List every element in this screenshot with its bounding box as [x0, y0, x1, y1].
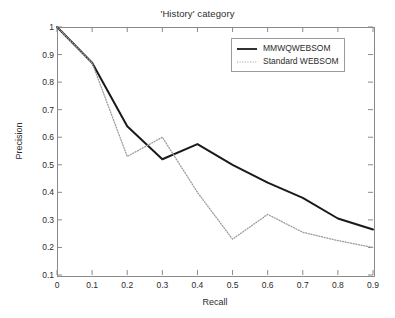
y-tick-label-6: 0.7	[20, 105, 54, 115]
x-tick-label-8: 0.8	[318, 280, 358, 290]
y-tick-label-7: 0.8	[20, 77, 54, 87]
y-tick-label-2: 0.3	[20, 215, 54, 225]
figure-canvas: 'History' category 0.10.20.30.40.50.60.7…	[0, 0, 395, 318]
legend-entry-0: MMWQWEBSOM	[236, 42, 339, 55]
x-tick-label-2: 0.2	[107, 280, 147, 290]
y-tick-label-5: 0.6	[20, 132, 54, 142]
x-tick-label-7: 0.7	[283, 280, 323, 290]
y-axis-label: Precision	[14, 96, 24, 186]
legend-box: MMWQWEBSOM Standard WEBSOM	[231, 38, 345, 72]
legend-line-dotted-icon	[236, 57, 258, 67]
x-tick-label-0: 0	[37, 280, 77, 290]
x-tick-label-5: 0.5	[213, 280, 253, 290]
x-tick-label-9: 0.9	[353, 280, 393, 290]
x-axis-label: Recall	[57, 297, 373, 307]
x-axis-tick-labels: 00.10.20.30.40.50.60.70.80.9	[0, 280, 395, 294]
y-tick-label-8: 0.9	[20, 50, 54, 60]
y-tick-label-3: 0.4	[20, 187, 54, 197]
x-tick-label-1: 0.1	[72, 280, 112, 290]
x-tick-label-3: 0.3	[142, 280, 182, 290]
y-tick-label-4: 0.5	[20, 160, 54, 170]
legend-line-solid-icon	[236, 44, 258, 54]
legend-label-0: MMWQWEBSOM	[263, 43, 331, 54]
chart-title: 'History' category	[0, 8, 395, 19]
y-tick-label-9: 1	[20, 22, 54, 32]
y-tick-label-1: 0.2	[20, 242, 54, 252]
y-tick-label-0: 0.1	[20, 270, 54, 280]
legend-label-1: Standard WEBSOM	[263, 56, 339, 67]
legend-entry-1: Standard WEBSOM	[236, 55, 339, 68]
x-tick-label-4: 0.4	[177, 280, 217, 290]
x-tick-label-6: 0.6	[248, 280, 288, 290]
